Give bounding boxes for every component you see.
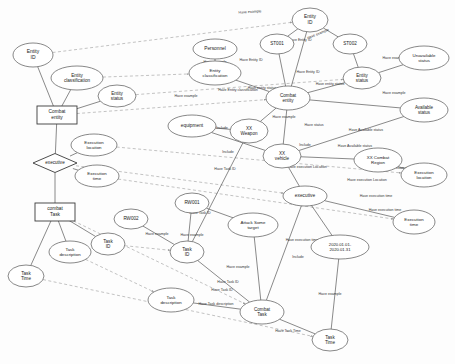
edge-label: Have execution time (360, 194, 393, 198)
node-label: 2020.01.31 (330, 247, 352, 252)
node-label: Combat (49, 109, 66, 114)
graph-node-available-status[interactable]: Availablestatus (400, 98, 448, 122)
graph-node-executive-r[interactable]: executive (283, 186, 327, 206)
solid-edge (58, 221, 66, 241)
node-label: combat (47, 206, 63, 211)
node-label: status (111, 96, 124, 101)
node-label: Entity (71, 73, 83, 78)
graph-node-equipment[interactable]: equipment (168, 115, 216, 137)
edge-label: Have Entity ID (297, 70, 320, 74)
graph-node-task-id-m[interactable]: TaskID (170, 241, 204, 263)
graph-node-entity-class-l[interactable]: Entityclassification (51, 66, 103, 90)
node-label: ID (185, 252, 190, 257)
solid-edge (62, 90, 71, 107)
graph-node-attack-target[interactable]: Attack Sometarget (228, 213, 278, 237)
graph-node-exec-loc-l[interactable]: Executionlocation (71, 134, 117, 156)
node-label: classification (203, 73, 228, 78)
solid-edge (55, 124, 56, 154)
node-label: Task (103, 239, 113, 244)
node-label: Task (50, 212, 60, 217)
node-label: time (93, 176, 102, 181)
graph-node-personnel[interactable]: Personnel (193, 39, 237, 59)
edge-label: Have Task Time (275, 329, 301, 333)
node-label: Entity (304, 14, 317, 19)
node-label: location (86, 145, 102, 150)
graph-node-entity-id-l[interactable]: EntityID (13, 43, 53, 67)
solid-edge (353, 54, 358, 67)
graph-node-combat-entity[interactable]: Combatentity (37, 106, 77, 124)
solid-edge (310, 100, 401, 108)
edge-label: Include (292, 255, 304, 259)
node-label: XX (279, 151, 285, 156)
node-label: classification (64, 78, 90, 83)
dashed-edge (86, 259, 154, 292)
graph-node-xx-combat-region[interactable]: XX CombatRegion (354, 148, 402, 172)
edge-label: Have execution Location (347, 178, 386, 182)
node-label: Entity (356, 73, 368, 78)
node-label: Task (325, 335, 335, 340)
graph-node-task-time-r[interactable]: TaskTime (312, 329, 348, 351)
dashed-edge (103, 74, 189, 77)
graph-node-task-time-l[interactable]: TaskTime (8, 265, 44, 287)
graph-node-rw001[interactable]: RW001 (175, 193, 209, 213)
node-label: status (418, 110, 431, 115)
edge-label: Have example (175, 94, 198, 98)
graph-node-unavailable-status[interactable]: Unavailablestatus (399, 46, 449, 70)
graph-node-exec-time-r[interactable]: Executiontime (393, 210, 435, 234)
graph-node-date-range[interactable]: 2020.01.01-2020.01.31 (311, 235, 369, 259)
node-label: Weapon (240, 131, 257, 136)
node-label: Task (21, 271, 31, 276)
edge-label: Include (299, 143, 311, 147)
graph-node-xx-vehicle[interactable]: XXvehicle (263, 144, 301, 168)
node-label: Entity (111, 91, 123, 96)
edge-label: Have Task ID (217, 280, 239, 284)
graph-node-entity-status-r[interactable]: Entitystatus (343, 67, 381, 89)
node-label: location (416, 175, 432, 180)
edge-label: Have execution time (369, 208, 402, 212)
edge-label: Have Available status (349, 128, 383, 132)
node-label: ID (31, 54, 36, 60)
edge-label: Have example (273, 115, 296, 119)
node-label: Task (257, 312, 267, 317)
graph-node-combat-entity-r[interactable]: Combatentity (266, 86, 310, 110)
graph-node-executive-l[interactable]: executive (33, 154, 77, 173)
node-label: RW001 (184, 200, 200, 205)
node-label: entity (283, 98, 295, 103)
dashed-edge (125, 246, 170, 251)
graph-node-st002[interactable]: ST002 (333, 34, 367, 54)
graph-node-entity-status-l[interactable]: Entitystatus (98, 85, 136, 107)
solid-edge (73, 169, 78, 171)
edge-label: Have entity status (316, 82, 345, 86)
solid-edge (279, 54, 286, 86)
graph-node-exec-time-l[interactable]: Executiontime (75, 165, 119, 187)
solid-edge (379, 65, 404, 73)
graph-node-exec-loc-r[interactable]: Executionlocation (401, 163, 447, 187)
node-label: Time (21, 276, 31, 281)
node-label: ST001 (270, 41, 284, 46)
graph-node-task-desc-m[interactable]: Taskdescription (148, 288, 194, 312)
edge-label: Have example (319, 292, 342, 296)
graph-node-xx-weapon[interactable]: XXWeapon (230, 119, 268, 143)
solid-edge (38, 67, 54, 106)
edge-label: Have example (146, 232, 169, 236)
node-label: Combat (254, 307, 271, 312)
solid-edge (301, 157, 354, 159)
node-label: ID (106, 244, 111, 249)
solid-edge (70, 153, 77, 156)
graph-node-task-desc-l[interactable]: Taskdescription (49, 241, 91, 263)
edge-label: Include (216, 126, 228, 130)
node-label: status (356, 78, 369, 83)
graph-node-combat-task-l[interactable]: combatTask (35, 203, 75, 221)
node-label: vehicle (275, 156, 290, 161)
node-label: equipment (181, 123, 204, 128)
graph-node-rw002[interactable]: RW002 (114, 209, 148, 229)
node-label: executive (45, 160, 65, 165)
graph-node-entity-class-r[interactable]: Entityclassification (189, 61, 241, 85)
graph-node-entity-id-r[interactable]: EntityID (292, 8, 328, 32)
node-label: status (418, 58, 431, 63)
edge-label: Have Task ID (211, 288, 233, 292)
graph-node-st001[interactable]: ST001 (260, 34, 294, 54)
graph-node-task-id-l[interactable]: TaskID (91, 233, 125, 255)
solid-edge (288, 29, 298, 36)
graph-node-combat-task-r[interactable]: CombatTask (240, 300, 284, 324)
